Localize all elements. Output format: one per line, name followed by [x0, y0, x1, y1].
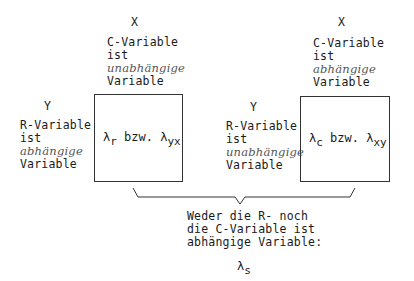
right-lambda-box: λc bzw. λxy: [300, 96, 390, 182]
right-col-line-4: Variable: [313, 76, 370, 89]
bottom-lambda-formula: λs: [237, 259, 251, 277]
grouping-brace: [130, 186, 360, 206]
lambda-subscript: s: [244, 264, 251, 277]
left-row-line-4: Variable: [20, 158, 77, 171]
right-col-var-label: X: [338, 16, 345, 29]
left-lambda-formula: λr bzw. λyx: [103, 130, 181, 148]
left-lambda-box: λr bzw. λyx: [94, 94, 183, 182]
left-col-var-label: X: [131, 16, 138, 29]
connector: bzw.: [124, 130, 153, 144]
left-col-line-4: Variable: [107, 75, 164, 88]
lambda-subscript: yx: [167, 135, 180, 148]
lambda-subscript: xy: [373, 136, 386, 149]
bottom-line-3: abhängige Variable:: [187, 236, 322, 249]
lambda-subscript: r: [110, 135, 117, 148]
lambda-subscript: c: [316, 136, 323, 149]
right-row-line-4: Variable: [226, 159, 283, 172]
right-row-var-label: Y: [250, 101, 257, 114]
right-lambda-formula: λc bzw. λxy: [309, 131, 387, 149]
connector: bzw.: [330, 131, 359, 145]
left-row-var-label: Y: [44, 100, 51, 113]
